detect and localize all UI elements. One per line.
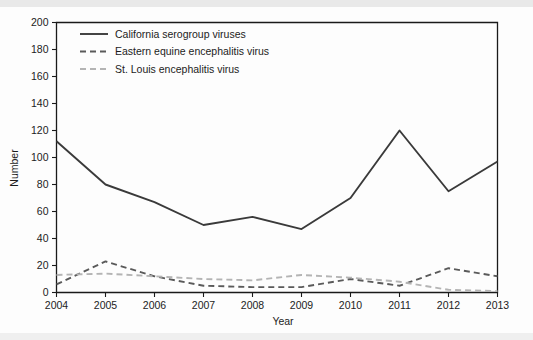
x-tick-label: 2006 bbox=[143, 299, 167, 311]
x-tick-label: 2005 bbox=[94, 299, 118, 311]
y-tick-label: 200 bbox=[31, 16, 49, 28]
y-tick-label: 60 bbox=[37, 205, 49, 217]
series-line-1 bbox=[57, 261, 498, 287]
y-tick-label: 0 bbox=[43, 286, 49, 298]
y-tick-label: 160 bbox=[31, 70, 49, 82]
legend-label-0: California serogroup viruses bbox=[115, 28, 246, 40]
x-axis-title: Year bbox=[272, 315, 294, 327]
line-chart: 020406080100120140160180200 200420052006… bbox=[0, 0, 533, 340]
y-axis-tick-labels: 020406080100120140160180200 bbox=[31, 16, 49, 298]
x-tick-label: 2012 bbox=[437, 299, 461, 311]
y-axis-title: Number bbox=[8, 149, 20, 187]
series-line-0 bbox=[57, 131, 498, 230]
legend-label-2: St. Louis encephalitis virus bbox=[115, 63, 239, 75]
x-tick-label: 2011 bbox=[388, 299, 411, 311]
figure-container: 020406080100120140160180200 200420052006… bbox=[0, 0, 533, 340]
legend-label-1: Eastern equine encephalitis virus bbox=[115, 45, 269, 57]
x-tick-label: 2009 bbox=[290, 299, 314, 311]
x-axis-ticks bbox=[57, 293, 498, 298]
x-tick-label: 2008 bbox=[241, 299, 265, 311]
y-tick-label: 120 bbox=[31, 124, 49, 136]
series-line-2 bbox=[57, 274, 498, 292]
x-tick-label: 2010 bbox=[339, 299, 363, 311]
y-axis-ticks bbox=[52, 23, 57, 293]
x-tick-label: 2004 bbox=[45, 299, 69, 311]
y-tick-label: 100 bbox=[31, 151, 49, 163]
y-tick-label: 40 bbox=[37, 232, 49, 244]
y-tick-label: 180 bbox=[31, 43, 49, 55]
page-bottom-edge bbox=[0, 333, 533, 340]
y-tick-label: 20 bbox=[37, 259, 49, 271]
chart-legend: California serogroup virusesEastern equi… bbox=[80, 28, 269, 75]
x-tick-label: 2013 bbox=[486, 299, 510, 311]
x-axis-tick-labels: 2004200520062007200820092010201120122013 bbox=[45, 299, 510, 311]
x-tick-label: 2007 bbox=[192, 299, 216, 311]
y-tick-label: 140 bbox=[31, 97, 49, 109]
y-tick-label: 80 bbox=[37, 178, 49, 190]
series-layer bbox=[57, 131, 498, 292]
